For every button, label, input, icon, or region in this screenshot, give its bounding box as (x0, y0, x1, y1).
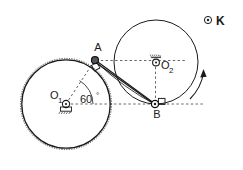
label-angle-degree-symbol: ° (96, 91, 99, 100)
pivot-o2-center-dot (155, 62, 157, 64)
label-pivot-o1-sub: 1 (58, 96, 63, 105)
pivot-o2-hatching (150, 55, 161, 58)
marker-k-group (204, 16, 211, 23)
label-point-a: A (94, 41, 102, 53)
label-angle-value: 60 (80, 93, 92, 105)
label-pivot-o2-sub: 2 (169, 66, 174, 75)
label-marker-k: K (216, 14, 225, 28)
pivot-o2-group (150, 55, 161, 66)
diagram-canvas: A B O 1 O 2 60 ° K (0, 0, 243, 170)
arrow-head-icon (200, 69, 206, 78)
connecting-rod-group (95, 60, 156, 106)
label-pivot-o2: O 2 (161, 59, 174, 75)
pivot-o1-center-dot (65, 103, 67, 105)
marker-k-center-dot (207, 19, 209, 21)
rotation-arrow-group (190, 69, 207, 99)
label-angle: 60 ° (80, 91, 99, 105)
label-pivot-o1: O 1 (50, 89, 63, 105)
label-point-b: B (153, 108, 160, 120)
mechanism-diagram: A B O 1 O 2 60 ° K (0, 0, 243, 170)
joint-b-center-dot (154, 103, 156, 105)
